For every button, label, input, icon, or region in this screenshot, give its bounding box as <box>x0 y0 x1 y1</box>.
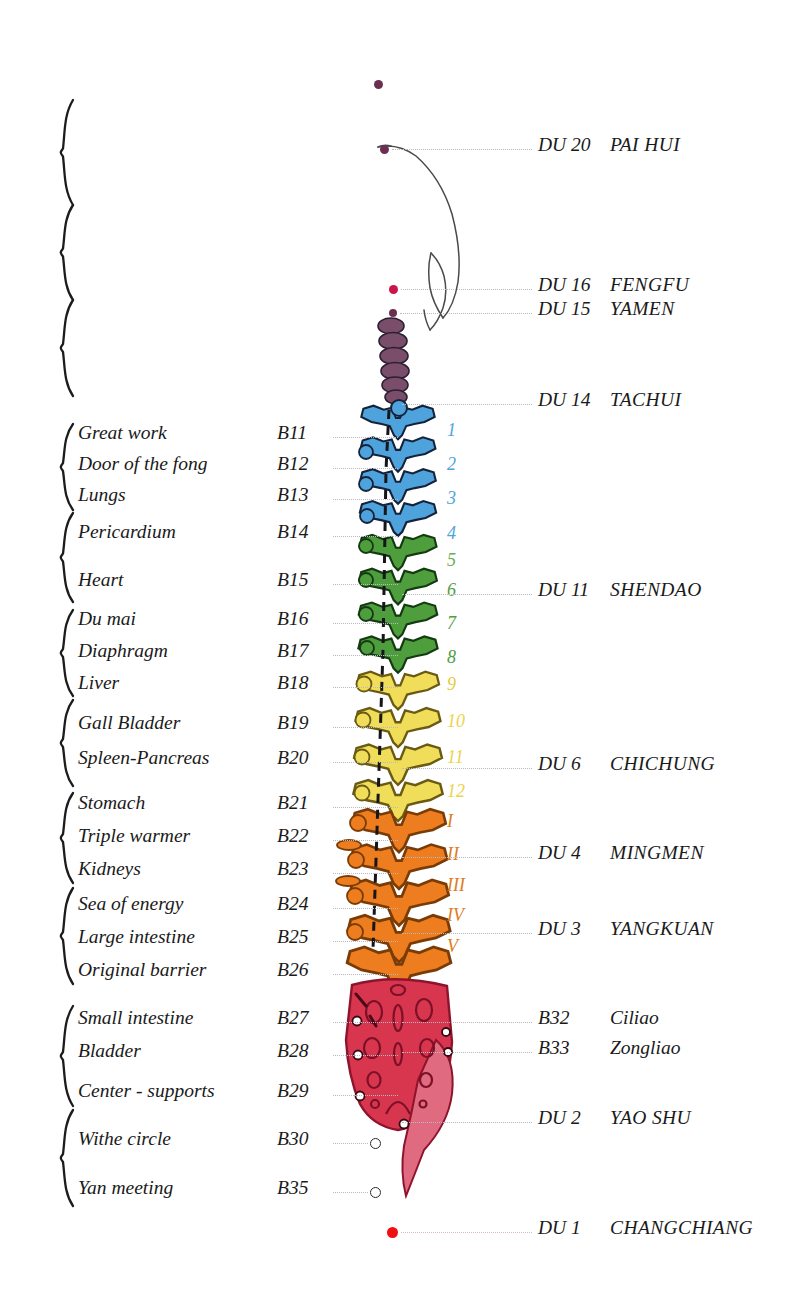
bladder-point-code: B13 <box>277 485 308 505</box>
vertebra-number: 8 <box>447 648 456 666</box>
group-brace <box>61 610 73 696</box>
du-point-name: CHANGCHIANG <box>610 1218 753 1238</box>
leader-line <box>333 727 398 729</box>
group-brace <box>61 793 73 883</box>
organ-label: Withe circle <box>78 1129 171 1149</box>
organ-label: Triple warmer <box>78 826 190 846</box>
du-point-name: MINGMEN <box>610 843 704 863</box>
leader-line <box>333 584 398 586</box>
leader-line <box>402 768 532 770</box>
organ-label: Liver <box>78 673 119 693</box>
leader-line <box>402 404 532 406</box>
organ-label: Spleen-Pancreas <box>78 748 209 768</box>
du-point-name: PAI HUI <box>610 135 680 155</box>
group-brace <box>61 513 73 602</box>
group-brace <box>61 700 73 786</box>
vertebra-number: III <box>447 876 465 894</box>
du-point-name: SHENDAO <box>610 580 702 600</box>
leader-line <box>333 1192 368 1194</box>
bladder-point-code: B17 <box>277 641 308 661</box>
open-circle-marker <box>370 1138 381 1149</box>
du-point-name: YANGKUAN <box>610 919 714 939</box>
bladder-point-code: B30 <box>277 1129 308 1149</box>
du-point-code: B33 <box>538 1038 569 1058</box>
bladder-point-code: B27 <box>277 1008 308 1028</box>
organ-label: Sea of energy <box>78 894 183 914</box>
du-point-code: DU 4 <box>538 843 581 863</box>
vertebra-number: 4 <box>447 524 456 542</box>
organ-label: Center - supports <box>78 1081 215 1101</box>
bladder-point-code: B35 <box>277 1178 308 1198</box>
leader-line <box>402 933 532 935</box>
leader-line <box>333 437 398 439</box>
leader-line <box>392 149 532 151</box>
organ-label: Original barrier <box>78 960 206 980</box>
leader-line <box>402 1122 532 1124</box>
acupoint-marker <box>389 309 397 317</box>
bladder-point-code: B11 <box>277 423 307 443</box>
leader-line <box>333 762 398 764</box>
du-point-name: FENGFU <box>610 275 689 295</box>
du-point-code: DU 1 <box>538 1218 581 1238</box>
leader-line <box>333 687 398 689</box>
du-point-code: DU 16 <box>538 275 591 295</box>
group-brace <box>61 424 73 510</box>
bladder-point-code: B28 <box>277 1041 308 1061</box>
organ-label: Bladder <box>78 1041 141 1061</box>
du-point-name: TACHUI <box>610 390 681 410</box>
du-point-name: Ciliao <box>610 1008 659 1028</box>
leader-line <box>333 1055 398 1057</box>
vertebra-number: 9 <box>447 675 456 693</box>
organ-label: Yan meeting <box>78 1178 173 1198</box>
bladder-point-code: B12 <box>277 454 308 474</box>
organ-label: Stomach <box>78 793 145 813</box>
group-brace <box>61 300 73 396</box>
leader-line <box>333 536 398 538</box>
leader-line <box>401 289 532 291</box>
leader-line <box>333 1143 368 1145</box>
bladder-point-code: B25 <box>277 927 308 947</box>
chart-canvas: Great workB11Door of the fongB12LungsB13… <box>0 0 809 1311</box>
du-point-name: YAMEN <box>610 299 675 319</box>
leader-line <box>333 468 398 470</box>
acupoint-marker <box>387 1227 398 1238</box>
vertebra-number: 10 <box>447 712 465 730</box>
group-brace <box>61 888 73 984</box>
organ-label: Kidneys <box>78 859 141 879</box>
vertebra-number: II <box>447 845 459 863</box>
bladder-point-code: B14 <box>277 522 308 542</box>
vertebra-number: 7 <box>447 614 456 632</box>
group-brace <box>61 1006 73 1106</box>
acupoint-marker <box>380 145 389 154</box>
bladder-point-code: B29 <box>277 1081 308 1101</box>
organ-label: Large intestine <box>78 927 195 947</box>
organ-label: Lungs <box>78 485 126 505</box>
du-point-code: DU 11 <box>538 580 589 600</box>
leader-line <box>333 499 398 501</box>
organ-label: Du mai <box>78 609 136 629</box>
bladder-point-code: B22 <box>277 826 308 846</box>
leader-line <box>333 1022 398 1024</box>
vertebra-number: 6 <box>447 581 456 599</box>
leader-line <box>333 840 398 842</box>
bladder-point-code: B18 <box>277 673 308 693</box>
leader-line <box>400 313 532 315</box>
du-point-code: B32 <box>538 1008 569 1028</box>
du-point-code: DU 3 <box>538 919 581 939</box>
bladder-point-code: B20 <box>277 748 308 768</box>
leader-line <box>333 1095 398 1097</box>
bladder-point-code: B23 <box>277 859 308 879</box>
acupoint-marker <box>389 285 398 294</box>
du-point-name: YAO SHU <box>610 1108 691 1128</box>
vertebra-number: V <box>447 937 458 955</box>
bladder-point-code: B19 <box>277 713 308 733</box>
leader-line <box>333 655 398 657</box>
organ-label: Pericardium <box>78 522 176 542</box>
organ-label: Small intestine <box>78 1008 193 1028</box>
leader-line <box>402 1052 532 1054</box>
vertebra-number: IV <box>447 906 464 924</box>
bladder-point-code: B26 <box>277 960 308 980</box>
du-point-code: DU 15 <box>538 299 591 319</box>
bladder-point-code: B15 <box>277 570 308 590</box>
leader-line <box>333 623 398 625</box>
